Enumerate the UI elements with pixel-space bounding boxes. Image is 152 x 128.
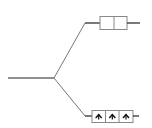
branch-diagram xyxy=(0,0,152,128)
upper-branch-line xyxy=(54,23,85,78)
lower-branch-line xyxy=(54,78,85,116)
lower-component xyxy=(85,111,139,123)
upper-component xyxy=(85,17,140,30)
